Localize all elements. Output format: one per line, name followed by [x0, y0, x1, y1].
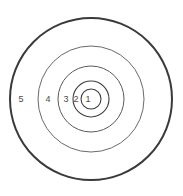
target-rings-graphic [0, 0, 183, 196]
concentric-circles-diagram: 12345 [0, 0, 183, 196]
ring-label-3: 3 [63, 95, 68, 104]
ring-label-5: 5 [18, 95, 23, 104]
ring-label-2: 2 [73, 95, 78, 104]
ring-label-4: 4 [45, 95, 50, 104]
ring-label-1: 1 [85, 95, 90, 104]
diagram-background [0, 0, 183, 196]
